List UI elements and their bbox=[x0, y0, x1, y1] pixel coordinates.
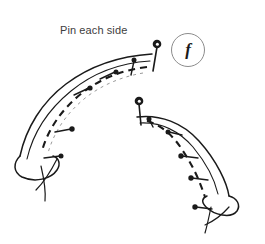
step-label-badge: f bbox=[171, 33, 205, 67]
left-fabric-panel bbox=[15, 54, 152, 201]
pin-right-apex bbox=[135, 97, 144, 125]
pin-left-1 bbox=[131, 58, 137, 76]
right-panel-inner-edge bbox=[140, 123, 218, 194]
left-panel-inner-edge bbox=[27, 61, 150, 159]
illustration-canvas bbox=[0, 0, 265, 244]
step-label-text: f bbox=[185, 41, 191, 58]
instruction-caption: Pin each side bbox=[60, 24, 127, 36]
right-panel-thread-tail-a bbox=[205, 207, 211, 233]
left-panel-seam-dashed-line bbox=[42, 67, 147, 151]
pin-right-3 bbox=[178, 153, 198, 158]
right-fabric-panel bbox=[137, 116, 239, 233]
sewing-instruction-figure: Pin each side f bbox=[0, 0, 265, 244]
pin-left-apex bbox=[153, 40, 162, 71]
right-panel-end-fold bbox=[203, 196, 239, 215]
right-panel-pins bbox=[135, 97, 212, 210]
pin-right-5 bbox=[192, 204, 212, 209]
